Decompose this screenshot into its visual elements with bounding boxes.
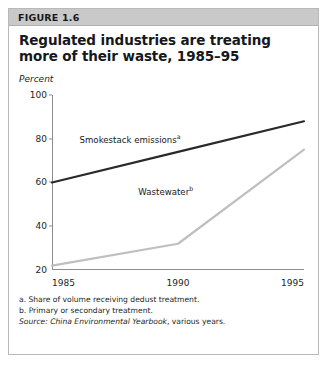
series-label-smokestack: Smokestack emissionsa [80, 133, 181, 145]
y-tick-label: 60 [19, 177, 47, 187]
footnote-a: a. Share of volume receiving dedust trea… [19, 294, 308, 305]
figure-card: FIGURE 1.6 Regulated industries are trea… [8, 8, 319, 355]
y-tick-label: 80 [19, 134, 47, 144]
axis-unit-label: Percent [19, 74, 308, 84]
figure-title: Regulated industries are treating more o… [19, 33, 308, 65]
chart-plot: 20406080100 198519901995 Smokestack emis… [19, 87, 310, 292]
y-tick-label: 100 [19, 90, 47, 100]
source-prefix: Source: [19, 317, 48, 326]
x-tick-label: 1990 [167, 278, 190, 288]
x-tick-label: 1995 [281, 278, 304, 288]
x-tick-label: 1985 [52, 278, 75, 288]
footnote-marker: a [177, 133, 181, 140]
figure-notes: a. Share of volume receiving dedust trea… [9, 294, 318, 327]
plot-area [52, 95, 304, 270]
figure-number-label: FIGURE 1.6 [18, 12, 79, 23]
series-line-wastewater [52, 150, 304, 266]
source-rest: , various years. [167, 317, 225, 326]
figure-body: Regulated industries are treating more o… [9, 26, 318, 292]
series-lines [52, 95, 304, 270]
series-line-smokestack [52, 121, 304, 182]
y-tick-label: 20 [19, 265, 47, 275]
source-title: China Environmental Yearbook [50, 317, 167, 326]
y-tick-label: 40 [19, 221, 47, 231]
footnote-marker: b [189, 185, 193, 192]
footnote-b: b. Primary or secondary treatment. [19, 305, 308, 316]
figure-header-bar: FIGURE 1.6 [9, 9, 318, 26]
series-label-wastewater: Wastewaterb [138, 185, 193, 197]
source-note: Source: China Environmental Yearbook, va… [19, 316, 308, 327]
